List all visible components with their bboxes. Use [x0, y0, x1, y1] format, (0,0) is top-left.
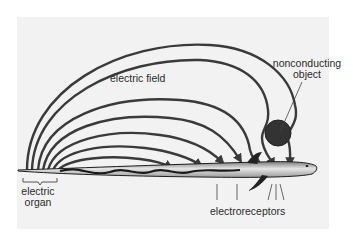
- fish-eye: [306, 165, 309, 167]
- nonconducting-object-label-line2: object: [262, 69, 352, 80]
- electric-organ-label-line2: organ: [16, 197, 60, 208]
- electric-fish-diagram: [0, 0, 353, 246]
- electroreceptor-leaders: [217, 184, 284, 200]
- electroreceptors-label: electroreceptors: [210, 206, 285, 217]
- electric-organ-bracket: [23, 178, 57, 185]
- electric-organ-label: electric organ: [16, 186, 60, 208]
- electric-field-label: electric field: [110, 73, 165, 84]
- nonconducting-object: [265, 120, 291, 146]
- electric-field-lines: [27, 45, 296, 170]
- nonconducting-object-label: nonconducting object: [262, 58, 352, 80]
